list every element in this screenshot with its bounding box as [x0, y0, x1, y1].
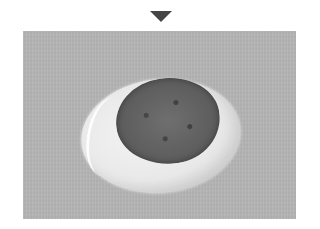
- down-arrow-icon: [150, 11, 172, 22]
- food-photo: [23, 31, 296, 219]
